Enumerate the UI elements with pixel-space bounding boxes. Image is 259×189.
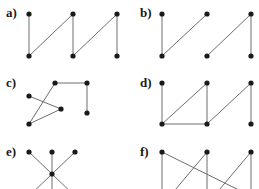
graphs-diagram bbox=[0, 0, 259, 189]
edges bbox=[29, 14, 251, 189]
nodes bbox=[26, 11, 253, 176]
